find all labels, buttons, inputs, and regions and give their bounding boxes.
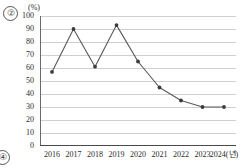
series-line	[52, 25, 224, 107]
x-tick-label: 2016	[44, 150, 60, 160]
data-point	[136, 60, 140, 64]
y-axis-tick-labels: 1009080706050403020100	[0, 16, 37, 146]
y-tick-label: 70	[0, 51, 34, 59]
data-point	[158, 86, 162, 90]
x-tick-label: 2024(년)	[210, 150, 238, 160]
y-tick-label: 80	[0, 38, 34, 46]
x-tick-label: 2023	[195, 150, 211, 160]
x-tick-label: 2022	[173, 150, 189, 160]
annotation-marker-four: ④	[0, 150, 10, 165]
data-point	[222, 105, 226, 109]
x-tick-label: 2021	[152, 150, 168, 160]
data-point	[179, 99, 183, 103]
y-tick-label: 100	[0, 12, 34, 20]
y-tick-label: 0	[0, 142, 34, 150]
y-tick-label: 90	[0, 25, 34, 33]
data-point	[72, 27, 76, 31]
data-point	[93, 65, 97, 69]
x-tick-label: 2020	[130, 150, 146, 160]
plot-area	[40, 16, 236, 146]
y-tick-label: 20	[0, 116, 34, 124]
x-tick-label: 2018	[87, 150, 103, 160]
x-tick-label: 2017	[66, 150, 82, 160]
data-point	[115, 23, 119, 27]
line-series	[40, 16, 236, 146]
data-point	[201, 105, 205, 109]
chart-container: ② ④ (%) 1009080706050403020100 201620172…	[0, 0, 243, 167]
x-tick-label: 2019	[109, 150, 125, 160]
y-tick-label: 60	[0, 64, 34, 72]
y-tick-label: 40	[0, 90, 34, 98]
x-axis-tick-labels: 201620172018201920202021202220232024(년)	[40, 150, 243, 164]
data-point	[50, 70, 54, 74]
y-tick-label: 30	[0, 103, 34, 111]
y-tick-label: 50	[0, 77, 34, 85]
y-tick-label: 10	[0, 129, 34, 137]
